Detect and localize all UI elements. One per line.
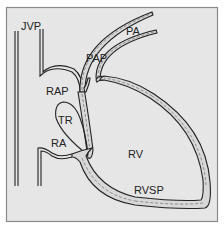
label-rv: RV [128,148,144,160]
label-pa: PA [126,25,141,37]
label-rvsp: RVSP [134,184,164,196]
label-rap: RAP [46,85,69,97]
label-jvp: JVP [21,20,41,32]
label-pap: PAP [86,52,107,64]
heart-diagram: JVP PA PAP RAP TR RA RV RVSP [0,0,224,228]
label-ra: RA [51,137,67,149]
label-tr: TR [58,114,73,126]
